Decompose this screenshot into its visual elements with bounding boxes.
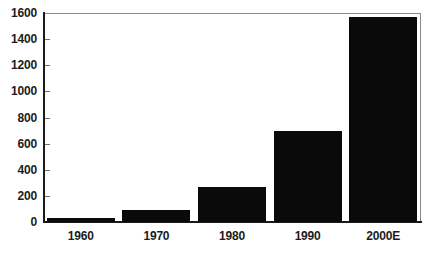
bar-chart-figure: 02004006008001000120014001600 1960197019… — [0, 0, 431, 256]
bar — [274, 131, 342, 222]
y-axis-tick-mark — [45, 118, 50, 119]
y-axis-tick-mark — [45, 39, 50, 40]
y-axis-tick-label: 1000 — [0, 83, 37, 99]
x-axis-tick-label: 1990 — [268, 228, 348, 244]
bar — [349, 17, 417, 222]
y-axis-tick-mark — [45, 65, 50, 66]
y-axis-tick-label: 600 — [0, 136, 37, 152]
y-axis-tick-label: 0 — [0, 214, 37, 230]
y-axis-tick-label: 1200 — [0, 57, 37, 73]
y-axis-tick-mark — [45, 91, 50, 92]
y-axis-tick-label: 400 — [0, 162, 37, 178]
y-axis-tick-mark — [45, 144, 50, 145]
y-axis-tick-label: 200 — [0, 188, 37, 204]
bar — [122, 210, 190, 222]
screenshot-root: 02004006008001000120014001600 1960197019… — [0, 0, 431, 256]
x-axis-tick-label: 2000E — [343, 228, 423, 244]
bar — [47, 218, 115, 222]
x-axis-tick-label: 1980 — [192, 228, 272, 244]
y-axis-tick-mark — [45, 170, 50, 171]
x-axis-tick-label: 1970 — [116, 228, 196, 244]
y-axis-tick-label: 1400 — [0, 31, 37, 47]
bar — [198, 187, 266, 222]
y-axis-tick-label: 800 — [0, 110, 37, 126]
y-axis-tick-label: 1600 — [0, 5, 37, 21]
y-axis-tick-mark — [45, 196, 50, 197]
x-axis-tick-label: 1960 — [41, 228, 121, 244]
